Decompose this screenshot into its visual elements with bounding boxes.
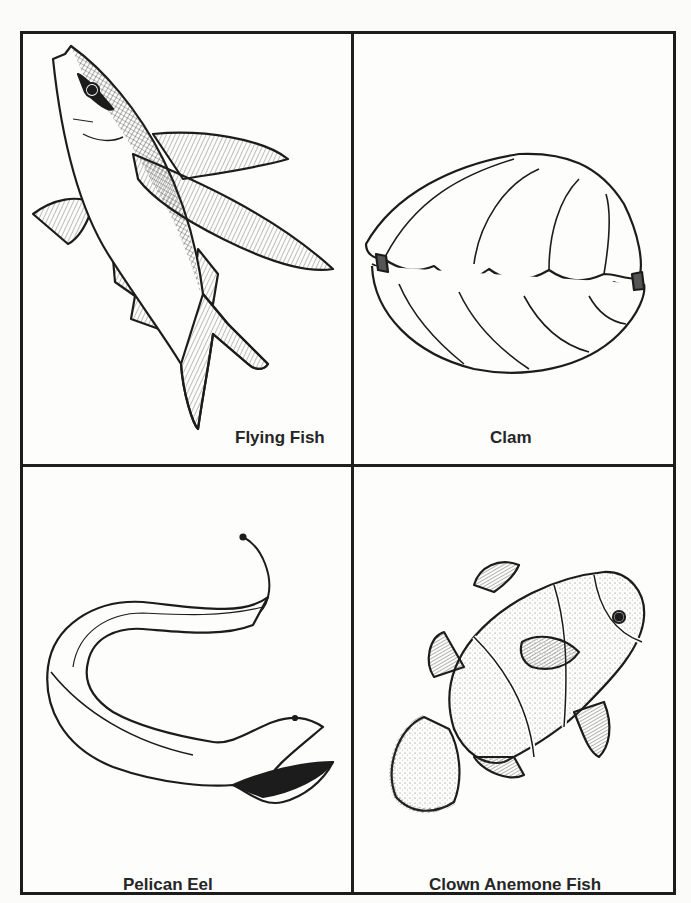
- flying-fish-icon: Flying Fish: [23, 34, 351, 464]
- caption-pelican-eel: Pelican Eel: [123, 875, 213, 892]
- clown-anemone-fish-icon: Clown Anemone Fish: [354, 467, 673, 892]
- pelican-eel-icon: Pelican Eel: [23, 467, 351, 892]
- caption-clown-anemone-fish: Clown Anemone Fish: [429, 875, 601, 892]
- coloring-sheet-frame: Flying Fish: [20, 31, 676, 895]
- cell-clown-anemone-fish: Clown Anemone Fish: [354, 467, 673, 892]
- caption-flying-fish: Flying Fish: [235, 428, 325, 447]
- cell-pelican-eel: Pelican Eel: [23, 467, 351, 892]
- caption-clam: Clam: [490, 428, 532, 447]
- cell-flying-fish: Flying Fish: [23, 34, 351, 464]
- clam-icon: Clam: [354, 34, 673, 464]
- cell-clam: Clam: [354, 34, 673, 464]
